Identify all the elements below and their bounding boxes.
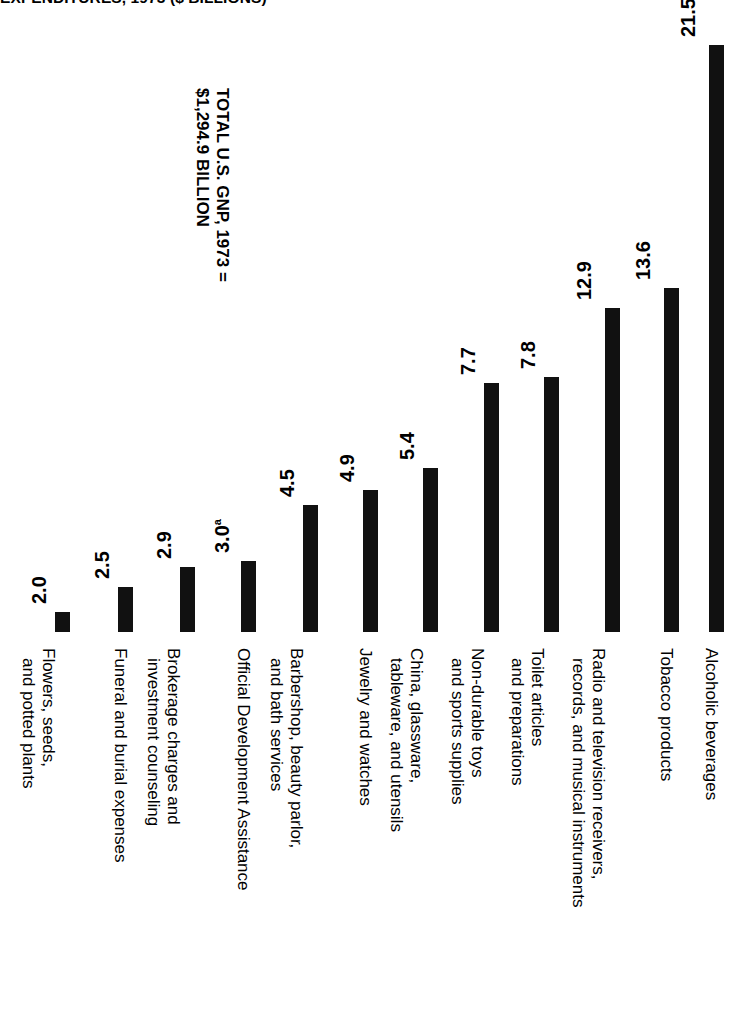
bar[interactable] xyxy=(484,383,499,632)
category-label-line: Official Development Assistance xyxy=(233,648,253,891)
bar-value-label: 4.5 xyxy=(277,469,297,497)
category-label-line: China, glassware, xyxy=(406,648,426,832)
bar[interactable] xyxy=(605,308,620,632)
bar[interactable] xyxy=(55,612,70,632)
category-label-line: tableware, and utensils xyxy=(386,648,406,832)
total-gnp-annotation: TOTAL U.S. GNP, 1973 = $1,294.9 BILLION xyxy=(193,88,232,368)
category-label-line: Flowers, seeds, xyxy=(38,648,58,788)
category-label: Tobacco products xyxy=(656,648,676,781)
bar[interactable] xyxy=(180,567,195,632)
category-label-line: Alcoholic beverages xyxy=(701,648,721,800)
bar-value-label: 13.6 xyxy=(632,241,652,280)
category-label-line: and sports supplies xyxy=(447,648,467,804)
category-label-line: Funeral and burial expenses xyxy=(110,648,130,863)
category-label-row: Flowers, seeds,and potted plantsFuneral … xyxy=(0,640,745,1032)
category-label: Funeral and burial expenses xyxy=(110,648,130,863)
category-label-line: Brokerage charges and xyxy=(163,648,183,826)
bar-value-label: 12.9 xyxy=(573,261,593,300)
category-label-line: Toilet articles xyxy=(527,648,547,786)
bar-chart-plot-area: TOTAL U.S. GNP, 1973 = $1,294.9 BILLION … xyxy=(0,0,745,640)
bar-value-label: 4.9 xyxy=(337,454,357,482)
category-label-line: and preparations xyxy=(507,648,527,786)
bar[interactable] xyxy=(664,288,679,632)
bar[interactable] xyxy=(303,505,318,632)
category-label-line: Barbershop, beauty parlor, xyxy=(286,648,306,848)
bar-value-label: 5.4 xyxy=(397,432,417,460)
bar[interactable] xyxy=(709,45,724,632)
category-label-line: and potted plants xyxy=(18,648,38,788)
bar-value-label: 3.0a xyxy=(212,519,232,553)
category-label: Non-durable toysand sports supplies xyxy=(447,648,487,804)
category-label: Toilet articlesand preparations xyxy=(507,648,547,786)
category-label-line: investment counseling xyxy=(143,648,163,826)
category-label: Alcoholic beverages xyxy=(701,648,721,800)
category-label-line: and bath services xyxy=(266,648,286,848)
category-label-line: records, and musical instruments xyxy=(568,648,588,907)
category-label-line: Tobacco products xyxy=(656,648,676,781)
bar-value-label: 21.5 xyxy=(677,0,697,37)
bar-value-label: 2.9 xyxy=(154,531,174,559)
bar[interactable] xyxy=(241,561,256,632)
category-label-line: Jewelry and watches xyxy=(355,648,375,806)
category-label: Radio and television receivers,records, … xyxy=(568,648,608,907)
category-label: Brokerage charges andinvestment counseli… xyxy=(143,648,183,826)
bar-value-label: 2.5 xyxy=(92,551,112,579)
category-label: Flowers, seeds,and potted plants xyxy=(18,648,58,788)
gnp-annotation-line1: TOTAL U.S. GNP, 1973 = xyxy=(213,88,232,282)
bar[interactable] xyxy=(118,587,133,632)
category-label: China, glassware,tableware, and utensils xyxy=(386,648,426,832)
bar-value-label: 7.7 xyxy=(458,347,478,375)
category-label-line: Radio and television receivers, xyxy=(588,648,608,907)
bar-value-label: 7.8 xyxy=(518,341,538,369)
category-label: Barbershop, beauty parlor,and bath servi… xyxy=(266,648,306,848)
gnp-annotation-line2: $1,294.9 BILLION xyxy=(193,88,213,368)
bar[interactable] xyxy=(423,468,438,632)
category-label-line: Non-durable toys xyxy=(467,648,487,804)
bar[interactable] xyxy=(363,490,378,632)
category-label: Official Development Assistance xyxy=(233,648,253,891)
footnote-marker: a xyxy=(211,519,223,525)
bar[interactable] xyxy=(544,377,559,632)
bar-value-label: 2.0 xyxy=(29,576,49,604)
category-label: Jewelry and watches xyxy=(355,648,375,806)
